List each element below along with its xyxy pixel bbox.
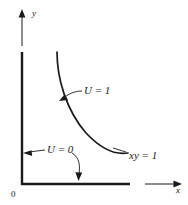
x-axis-label: x	[176, 186, 180, 195]
hyperbola-curve	[57, 52, 128, 153]
xy1-leader-line	[113, 148, 126, 152]
y-axis-arrow	[19, 9, 26, 46]
origin-label: 0	[11, 190, 16, 199]
equation-label-xy1: xy = 1	[129, 150, 157, 161]
curve-label-u1: U = 1	[84, 85, 110, 96]
region-label-u0: U = 0	[47, 144, 73, 155]
u0-leader-arrow-down	[72, 153, 82, 181]
diagram-canvas	[0, 0, 188, 205]
u0-leader-arrow-left	[23, 150, 45, 156]
hyperbola-diagram: y x U = 1 U = 0 xy = 1 0	[0, 0, 188, 205]
y-axis-label: y	[32, 9, 36, 18]
u1-leader-arrow	[59, 91, 82, 101]
